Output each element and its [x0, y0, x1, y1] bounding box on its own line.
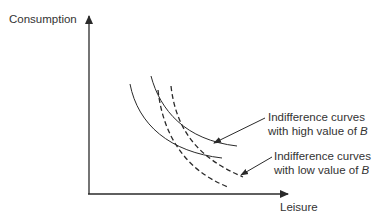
- low-B-pointer-arrow: [241, 157, 272, 175]
- high-B-pointer-arrow: [214, 118, 265, 143]
- annotation-high-line1: Indifference curves: [268, 110, 368, 124]
- high-B-curve-2: [130, 84, 222, 158]
- annotation-high-text: with high value of: [268, 125, 360, 137]
- annotation-low-B: Indifference curves with low value of B: [274, 149, 371, 177]
- annotation-high-B: Indifference curves with high value of B: [268, 110, 368, 138]
- variable-B: B: [360, 125, 368, 137]
- indifference-curve-diagram: Consumption Leisure Indifference curves …: [0, 0, 386, 221]
- low-B-curve-2: [171, 86, 243, 177]
- y-axis-label: Consumption: [9, 12, 77, 26]
- annotation-low-line1: Indifference curves: [274, 149, 371, 163]
- high-B-curve-1: [151, 76, 237, 146]
- x-axis-label: Leisure: [280, 200, 318, 214]
- annotation-low-text: with low value of: [274, 164, 362, 176]
- annotation-low-line2: with low value of B: [274, 163, 371, 177]
- variable-B: B: [362, 164, 370, 176]
- annotation-high-line2: with high value of B: [268, 124, 368, 138]
- low-B-curve-1: [158, 90, 228, 187]
